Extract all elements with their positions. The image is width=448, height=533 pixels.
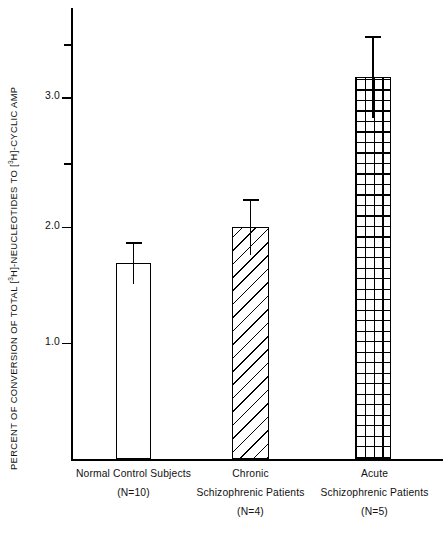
y-tick-major-2-0 [62,227,73,229]
y-tick-major-1-0 [62,343,73,345]
y-tick-label-2-0: 2.0 [32,220,60,231]
bar-chronic-schizophrenic [232,227,269,459]
y-axis-title-sup2: 3 [7,160,14,164]
y-axis-title-seg3: H]-CYCLIC AMP [8,87,19,161]
y-axis-line [71,8,73,460]
x-axis-line [71,459,443,461]
y-tick-label-1-0: 1.0 [32,336,60,347]
error-bar-acute-schizophrenic [365,36,381,118]
error-bar-stem [372,36,374,118]
y-axis-title-seg1: PERCENT OF CONVERSION OF TOTAL [ [8,281,19,470]
category-label-acute-schizophrenic: Acute Schizophrenic Patients (N=5) [302,464,447,521]
y-tick-minor-3-5 [64,44,73,46]
y-axis-title: PERCENT OF CONVERSION OF TOTAL [3H]-NEUC… [0,0,26,470]
bar-chart-figure: PERCENT OF CONVERSION OF TOTAL [3H]-NEUC… [0,0,448,533]
y-axis-title-seg2: H]-NEUCLEOTIDES TO [ [8,164,19,277]
error-bar-normal-control [126,242,142,284]
y-axis-title-sup1: 3 [7,277,14,281]
error-bar-stem [250,199,252,255]
y-tick-label-3-0: 3.0 [32,90,60,101]
error-bar-cap-top [365,36,381,38]
category-label-line: Acute [302,464,447,483]
error-bar-cap-top [126,242,142,244]
y-tick-major-3-0 [62,97,73,99]
bar-acute-schizophrenic [355,77,391,459]
category-label-line: (N=5) [302,502,447,521]
error-bar-chronic-schizophrenic [243,199,259,255]
bar-normal-control [116,263,151,459]
y-axis-title-text: PERCENT OF CONVERSION OF TOTAL [3H]-NEUC… [7,87,19,470]
error-bar-cap-top [243,199,259,201]
category-label-line: Schizophrenic Patients [302,483,447,502]
error-bar-stem [133,242,135,284]
y-tick-minor-2-5 [64,163,73,165]
